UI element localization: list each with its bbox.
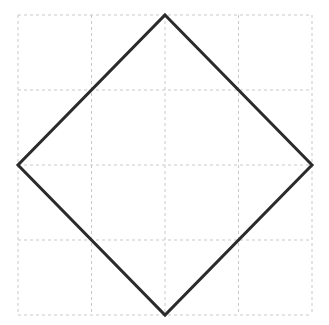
diamond-grid-figure bbox=[0, 0, 329, 325]
diagram-canvas bbox=[0, 0, 329, 325]
